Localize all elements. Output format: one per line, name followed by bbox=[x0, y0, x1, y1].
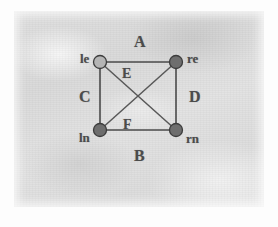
node-label-re: re bbox=[187, 52, 198, 65]
edge-label-a: A bbox=[134, 34, 146, 50]
edge-label-c: C bbox=[79, 89, 91, 105]
screenshot-root: le re ln rn A B C D E F bbox=[0, 0, 278, 227]
node-label-rn: rn bbox=[186, 132, 199, 145]
node-label-le: le bbox=[80, 52, 89, 65]
node-re-marker[interactable] bbox=[170, 56, 183, 69]
node-le-marker[interactable] bbox=[94, 56, 107, 69]
node-ln-marker[interactable] bbox=[94, 124, 107, 137]
node-label-ln: ln bbox=[79, 131, 90, 144]
edge-label-e: E bbox=[122, 67, 131, 81]
edge-label-f: F bbox=[123, 118, 132, 132]
edge-label-b: B bbox=[134, 148, 145, 164]
node-rn-marker[interactable] bbox=[170, 124, 183, 137]
edge-label-d: D bbox=[189, 89, 201, 105]
